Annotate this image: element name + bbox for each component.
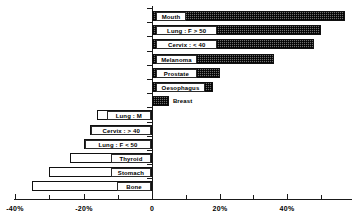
- x-tick-major: [287, 194, 288, 200]
- bar-label: Oesophagus: [156, 83, 205, 92]
- x-axis-line: [14, 199, 352, 200]
- category-tick: [147, 51, 152, 52]
- x-axis-label: -20%: [75, 205, 93, 212]
- bar-label: Stomach: [111, 168, 151, 177]
- bar-label: Lung : F < 50: [85, 140, 151, 149]
- category-tick: [147, 164, 152, 165]
- bar-label: Mouth: [156, 12, 186, 21]
- category-tick: [147, 22, 152, 23]
- category-tick: [147, 36, 152, 37]
- x-axis-label: 20%: [213, 205, 228, 212]
- category-tick: [147, 8, 152, 9]
- bar-label: Bone: [117, 182, 151, 191]
- category-tick: [147, 107, 152, 108]
- bar-label: Cervix : > 40: [91, 126, 151, 135]
- category-tick: [147, 122, 152, 123]
- category-tick: [147, 79, 152, 80]
- bar-label: Thyroid: [111, 154, 151, 163]
- bar-label: Lung : M: [107, 111, 151, 120]
- x-tick-minor: [49, 195, 50, 199]
- category-tick: [147, 136, 152, 137]
- x-tick-minor: [321, 195, 322, 199]
- x-tick-minor: [186, 195, 187, 199]
- category-tick: [147, 178, 152, 179]
- x-tick-major: [84, 194, 85, 200]
- category-tick: [147, 93, 152, 94]
- x-tick-minor: [253, 195, 254, 199]
- category-tick: [147, 150, 152, 151]
- x-tick-major: [220, 194, 221, 200]
- category-tick: [147, 65, 152, 66]
- bar-label: Melanoma: [156, 55, 197, 64]
- bar: [152, 96, 169, 106]
- bar-chart: MouthLung : F > 50Cervix : < 40MelanomaP…: [0, 0, 352, 224]
- bar-label: Cervix : < 40: [156, 40, 217, 49]
- x-tick-minor: [118, 195, 119, 199]
- bar-label: Lung : F > 50: [156, 26, 217, 35]
- x-tick-major: [152, 194, 153, 200]
- x-axis-label: -40%: [6, 205, 24, 212]
- bar-label: Prostate: [156, 69, 197, 78]
- bar-label: Breast: [173, 97, 193, 106]
- x-axis-label: 0: [150, 205, 154, 212]
- x-tick-major: [15, 194, 16, 200]
- x-axis-label: 40%: [280, 205, 295, 212]
